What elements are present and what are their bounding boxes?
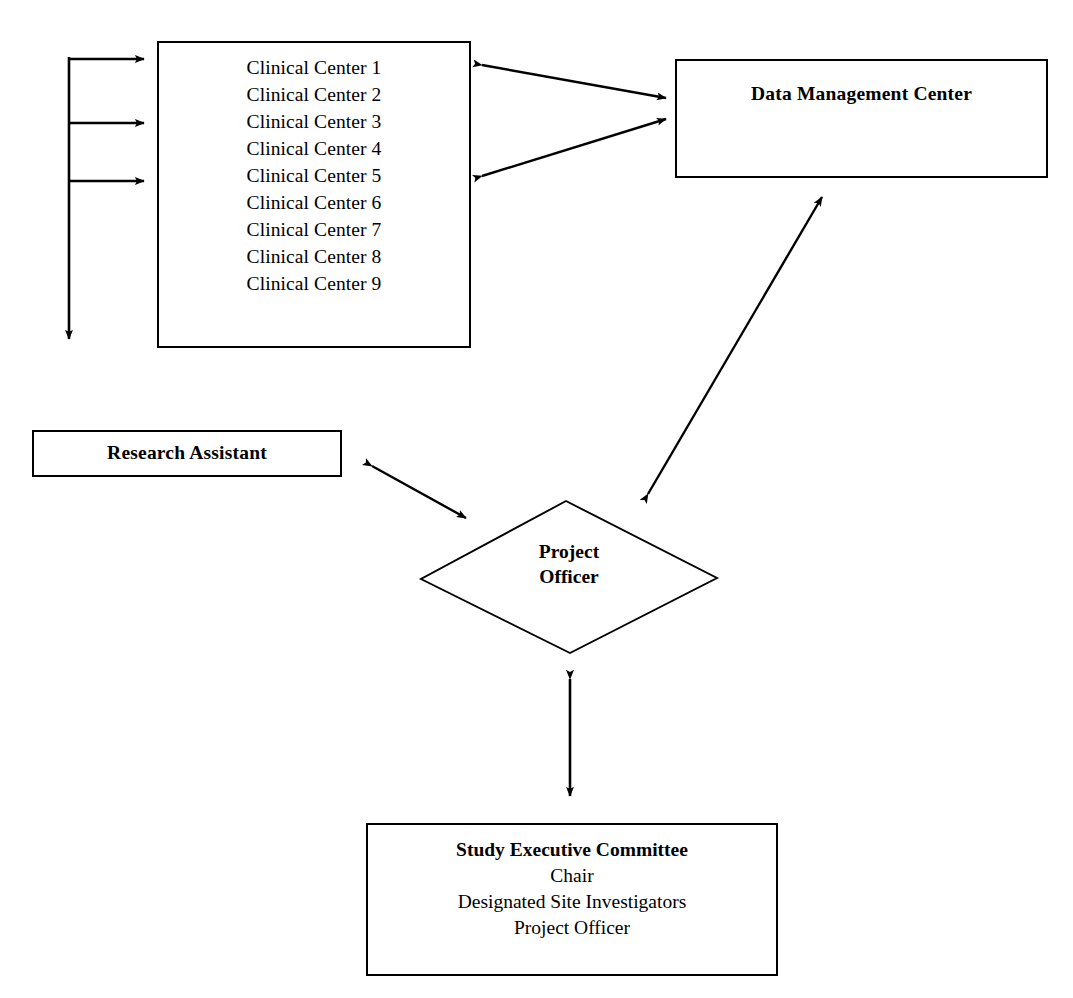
study-executive-committee-member: Designated Site Investigators (368, 889, 776, 915)
list-item: Clinical Center 2 (159, 81, 469, 108)
project-officer-label-line1: Project (418, 539, 720, 564)
clinical-centers-list: Clinical Center 1 Clinical Center 2 Clin… (159, 54, 469, 297)
study-executive-committee-node: Study Executive Committee Chair Designat… (366, 823, 778, 976)
diagram-canvas: Clinical Center 1 Clinical Center 2 Clin… (0, 0, 1073, 998)
study-executive-committee-title: Study Executive Committee (368, 837, 776, 863)
list-item: Clinical Center 7 (159, 216, 469, 243)
list-item: Clinical Center 8 (159, 243, 469, 270)
clinical-centers-node: Clinical Center 1 Clinical Center 2 Clin… (157, 41, 471, 348)
project-officer-label-line2: Officer (418, 564, 720, 589)
list-item: Clinical Center 5 (159, 162, 469, 189)
research-assistant-node: Research Assistant (32, 430, 342, 477)
connector-project-officer-to-data-management-center (648, 197, 822, 494)
connector-clinical-centers-to-data-management-center-lower (482, 119, 666, 176)
data-management-center-label: Data Management Center (677, 83, 1046, 105)
list-item: Clinical Center 1 (159, 54, 469, 81)
study-executive-committee-member: Project Officer (368, 915, 776, 941)
study-executive-committee-content: Study Executive Committee Chair Designat… (368, 837, 776, 941)
project-officer-node: Project Officer (418, 498, 720, 656)
research-assistant-label: Research Assistant (34, 442, 340, 464)
project-officer-label: Project Officer (418, 539, 720, 589)
data-management-center-node: Data Management Center (675, 59, 1048, 178)
list-item: Clinical Center 3 (159, 108, 469, 135)
connector-clinical-centers-to-data-management-center-upper (482, 65, 666, 98)
list-item: Clinical Center 4 (159, 135, 469, 162)
list-item: Clinical Center 6 (159, 189, 469, 216)
list-item: Clinical Center 9 (159, 270, 469, 297)
study-executive-committee-member: Chair (368, 863, 776, 889)
